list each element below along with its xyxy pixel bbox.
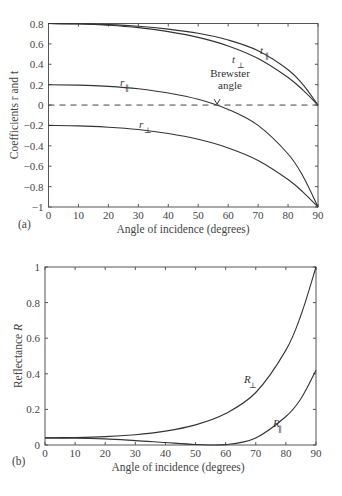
- y-tick-label: −0.8: [24, 181, 44, 193]
- y-tick-label: 0.4: [30, 58, 44, 70]
- panel-b-reflectance: 010203040506070809000.20.40.60.81R⊥R∥Ang…: [12, 261, 322, 474]
- x-tick-label: 30: [130, 447, 142, 459]
- x-tick-label: 30: [133, 209, 145, 221]
- x-tick-label: 20: [100, 447, 112, 459]
- x-tick-label: 20: [103, 209, 115, 221]
- series-line-2: [49, 85, 319, 207]
- t-parallel-label: t: [260, 44, 264, 56]
- x-tick-label: 80: [283, 209, 295, 221]
- t-parallel-subscript: ∥: [265, 52, 269, 61]
- series-line-0: [49, 24, 319, 106]
- x-tick-label: 90: [313, 209, 325, 221]
- x-tick-label: 60: [220, 447, 232, 459]
- series-line-0: [45, 267, 316, 438]
- panel-a-coefficients: 01020304050607080900.80.60.40.20−0.2−0.4…: [8, 18, 324, 237]
- t-perp-subscript: ⊥: [237, 61, 245, 70]
- x-tick-label: 60: [223, 209, 235, 221]
- brewster-arrow-icon: [214, 99, 220, 104]
- x-tick-label: 10: [70, 447, 82, 459]
- y-tick-label: 0.8: [30, 18, 44, 30]
- y-tick-label: 0: [38, 99, 44, 111]
- x-tick-label: 50: [193, 209, 205, 221]
- y-tick-label: 0.8: [26, 297, 40, 309]
- y-axis-title-a: Coefficients r and t: [8, 70, 20, 159]
- series-line-3: [49, 125, 319, 207]
- y-tick-label: 1: [35, 261, 41, 273]
- r-parallel-subscript: ∥: [125, 84, 129, 93]
- panel-tag-a: (a): [18, 218, 31, 231]
- x-tick-label: 40: [163, 209, 175, 221]
- x-tick-label: 50: [190, 447, 202, 459]
- x-tick-label: 70: [250, 447, 262, 459]
- x-tick-label: 0: [42, 447, 48, 459]
- fresnel-figure: 01020304050607080900.80.60.40.20−0.2−0.4…: [0, 0, 342, 496]
- y-tick-label: 0.2: [30, 79, 44, 91]
- y-tick-label: −1: [32, 201, 44, 213]
- x-tick-label: 40: [160, 447, 172, 459]
- x-tick-label: 70: [253, 209, 265, 221]
- series-line-1: [49, 24, 319, 106]
- y-axis-title-b: Reflectance R: [12, 324, 24, 388]
- plot-frame: [49, 24, 319, 208]
- r-perp-reflectance-subscript: ⊥: [249, 381, 257, 390]
- x-axis-title-b: Angle of incidence (degrees): [111, 461, 244, 474]
- x-tick-label: 90: [311, 447, 323, 459]
- y-tick-label: 0.4: [26, 368, 40, 380]
- t-perp-label: t: [232, 53, 236, 65]
- y-tick-label: −0.2: [24, 119, 44, 131]
- x-tick-label: 10: [73, 209, 85, 221]
- y-tick-label: −0.4: [24, 140, 44, 152]
- y-tick-label: 0.2: [26, 403, 40, 415]
- brewster-label-line2: angle: [218, 79, 242, 91]
- panel-tag-b: (b): [12, 455, 26, 468]
- x-tick-label: 80: [280, 447, 292, 459]
- x-tick-label: 0: [46, 209, 52, 221]
- x-axis-title-a: Angle of incidence (degrees): [116, 223, 249, 236]
- r-parallel-reflectance-subscript: ∥: [278, 425, 282, 434]
- y-tick-label: −0.6: [24, 160, 44, 172]
- y-tick-label: 0.6: [26, 332, 40, 344]
- y-tick-label: 0.6: [30, 38, 44, 50]
- r-perp-subscript: ⊥: [144, 126, 152, 135]
- series-line-1: [45, 370, 316, 445]
- y-tick-label: 0: [35, 439, 41, 451]
